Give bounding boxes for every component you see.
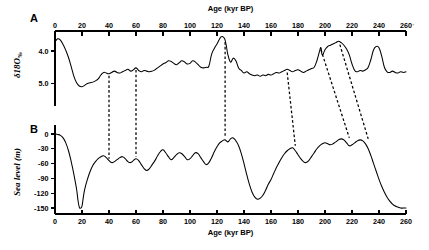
panel-b: B020406080100120140160180200220240260Age…: [12, 123, 412, 237]
panel-a-x-tick-label: 160: [265, 21, 277, 30]
panel-b-x-tick-label: 40: [105, 217, 113, 226]
panel-a-y-axis-title: δ18O‰: [12, 52, 23, 78]
panel-a-x-tick-label: 40: [105, 21, 113, 30]
panel-b-y-tick-label: -150: [34, 204, 48, 213]
panel-b-y-tick-label: -120: [34, 189, 48, 198]
panel-b-label: B: [30, 123, 38, 135]
panel-a-x-tick-label: 200: [319, 21, 331, 30]
panel-a-x-tick-label: 140: [238, 21, 250, 30]
panel-b-x-tick-label: 260: [400, 217, 412, 226]
panel-a-x-tick-label: 60: [132, 21, 140, 30]
panel-a-x-tick-label: 0: [53, 21, 57, 30]
panel-a-y-axis-title-main: δ18O: [12, 57, 22, 78]
panel-a-x-tick-label: 240: [373, 21, 385, 30]
panel-a-y-axis-title-unit: ‰: [17, 52, 23, 58]
panel-b-x-tick-label: 220: [346, 217, 358, 226]
panel-b-x-axis-title: Age (kyr BP): [208, 228, 254, 237]
panel-b-x-tick-label: 180: [292, 217, 304, 226]
panel-b-y-axis-title: Sea level (m): [12, 148, 22, 196]
correlation-lines: [109, 42, 368, 159]
paleoclimate-figure: AAge (kyr BP)020406080100120140160180200…: [0, 0, 429, 250]
panel-a-x-tick-label: 120: [211, 21, 223, 30]
panel-a-label: A: [30, 12, 38, 24]
panel-a-x-axis-title: Age (kyr BP): [208, 4, 254, 13]
panel-b-x-tick-label: 160: [265, 217, 277, 226]
panel-b-x-tick-label: 240: [373, 217, 385, 226]
panel-a-x-tick-label: 180: [292, 21, 304, 30]
tie-line-175kyr: [287, 72, 295, 145]
panel-b-x-tick-label: 140: [238, 217, 250, 226]
panel-a-edge-mark: ': [412, 23, 413, 29]
panel-a-x-tick-label: 260: [400, 21, 412, 30]
panel-b-y-tick-label: -30: [38, 144, 48, 153]
panel-b-x-tick-label: 120: [211, 217, 223, 226]
panel-b-x-tick-label: 20: [78, 217, 86, 226]
tie-line-210kyr: [340, 45, 368, 139]
panel-a-data-curve: [55, 36, 406, 86]
tie-line-197kyr: [321, 50, 349, 138]
panel-a-x-tick-label: 80: [159, 21, 167, 30]
figure-container: AAge (kyr BP)020406080100120140160180200…: [0, 0, 429, 250]
panel-a-y-tick-label: 4.0: [39, 47, 49, 56]
panel-b-x-tick-label: 0: [53, 217, 57, 226]
panel-b-x-tick-label: 100: [184, 217, 196, 226]
panel-b-data-curve: [55, 134, 406, 208]
panel-b-y-tick-label: -90: [38, 174, 48, 183]
panel-a-y-tick-label: 5.0: [39, 79, 49, 88]
panel-a-x-tick-label: 20: [78, 21, 86, 30]
panel-b-x-tick-label: 60: [132, 217, 140, 226]
panel-b-y-tick-label: -60: [38, 159, 48, 168]
panel-b-x-tick-label: 200: [319, 217, 331, 226]
panel-a-x-tick-label: 100: [184, 21, 196, 30]
panel-b-y-tick-label: 0: [45, 130, 49, 139]
panel-a-x-tick-label: 220: [346, 21, 358, 30]
panel-b-x-tick-label: 80: [159, 217, 167, 226]
